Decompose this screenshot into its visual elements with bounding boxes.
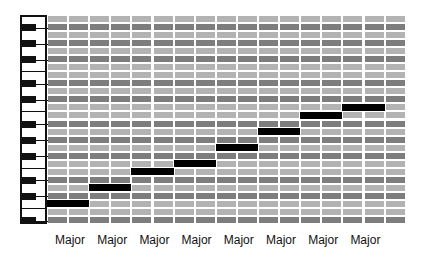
grid-cell (175, 121, 194, 127)
grid-cell (69, 137, 88, 143)
grid-cell (238, 177, 257, 183)
grid-cell (90, 32, 109, 38)
grid-cell (111, 48, 130, 54)
grid-cell (48, 153, 67, 159)
grid-cell (217, 112, 236, 118)
grid-cell (280, 161, 299, 167)
grid-cell (69, 121, 88, 127)
grid-cell (217, 16, 236, 22)
grid-cell (365, 209, 384, 215)
grid-cell (154, 145, 173, 151)
grid-cell (111, 121, 130, 127)
grid-cell (90, 40, 109, 46)
grid-cell (132, 129, 151, 135)
grid-cell (48, 112, 67, 118)
grid-cell (154, 185, 173, 191)
grid-cell (217, 104, 236, 110)
grid-cell (280, 193, 299, 199)
grid-cell (132, 161, 151, 167)
grid-cell (386, 88, 405, 94)
grid-cell (175, 64, 194, 70)
grid-cell (175, 48, 194, 54)
grid-cell (259, 177, 278, 183)
grid-cell (365, 24, 384, 30)
grid-cell (322, 104, 341, 110)
grid-cell (69, 80, 88, 86)
grid-cell (196, 169, 215, 175)
grid-cell (69, 48, 88, 54)
grid-cell (111, 153, 130, 159)
grid-cell (90, 64, 109, 70)
grid-cell (280, 185, 299, 191)
grid-cell (48, 193, 67, 199)
grid-cell (154, 88, 173, 94)
grid-cell (365, 161, 384, 167)
grid-cell (69, 64, 88, 70)
grid-cell (238, 112, 257, 118)
grid-cell (386, 137, 405, 143)
grid-cell (154, 48, 173, 54)
grid-cell (175, 169, 194, 175)
grid-cell (238, 56, 257, 62)
grid-cell (196, 16, 215, 22)
grid-cell (175, 193, 194, 199)
grid-cell (238, 161, 257, 167)
grid-cell (386, 16, 405, 22)
grid-cell (322, 185, 341, 191)
grid-cell (154, 137, 173, 143)
grid-cell (111, 96, 130, 102)
grid-cell (280, 169, 299, 175)
grid-cell (280, 64, 299, 70)
grid-cell (322, 96, 341, 102)
grid-cell (238, 24, 257, 30)
grid-cell (175, 185, 194, 191)
grid-cell (280, 40, 299, 46)
grid-cell (343, 16, 362, 22)
grid-cell (365, 177, 384, 183)
grid-cell (175, 24, 194, 30)
grid-cell (280, 145, 299, 151)
grid-cell (48, 88, 67, 94)
grid-cell (154, 64, 173, 70)
grid-cell (111, 169, 130, 175)
key-divider (22, 111, 45, 112)
note-block (258, 128, 300, 135)
grid-cell (90, 96, 109, 102)
grid-cell (280, 96, 299, 102)
grid-cell (280, 153, 299, 159)
grid-cell (343, 96, 362, 102)
grid-cell (386, 32, 405, 38)
grid-cell (238, 88, 257, 94)
grid-cell (90, 177, 109, 183)
grid-cell (111, 145, 130, 151)
grid-cell (301, 137, 320, 143)
grid-cell (90, 209, 109, 215)
grid-cell (301, 24, 320, 30)
grid-cell (301, 104, 320, 110)
grid-cell (69, 193, 88, 199)
grid-cell (154, 32, 173, 38)
grid-cell (217, 193, 236, 199)
grid-cell (280, 177, 299, 183)
grid-cell (301, 121, 320, 127)
grid-cell (301, 80, 320, 86)
grid-cell (280, 121, 299, 127)
grid-cell (111, 80, 130, 86)
grid-cell (69, 217, 88, 223)
grid-cell (365, 80, 384, 86)
grid-cell (322, 24, 341, 30)
grid-cell (365, 185, 384, 191)
grid-cell (322, 64, 341, 70)
grid-cell (132, 209, 151, 215)
grid-cell (217, 129, 236, 135)
grid-cell (365, 217, 384, 223)
grid-cell (238, 209, 257, 215)
grid-cell (259, 112, 278, 118)
grid-cell (132, 24, 151, 30)
grid-cell (69, 153, 88, 159)
grid-cell (196, 177, 215, 183)
grid-cell (175, 112, 194, 118)
grid-cell (238, 217, 257, 223)
grid-cell (69, 40, 88, 46)
grid-cell (386, 64, 405, 70)
